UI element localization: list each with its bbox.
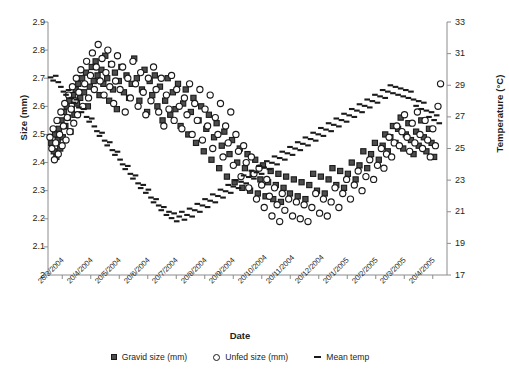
- legend-item[interactable]: Unfed size (mm): [213, 352, 288, 362]
- x-axis-tick-label: 20/8/2004: [179, 256, 209, 286]
- legend-item-label: Unfed size (mm): [225, 352, 288, 362]
- x-axis-tick-label: 20/11/2004: [264, 253, 296, 285]
- x-axis-tick-label: 20/12/2004: [293, 253, 326, 286]
- x-axis-tick-label: 20/3/2004: [36, 256, 66, 286]
- chart-legend: Gravid size (mm)Unfed size (mm)Mean temp: [0, 352, 480, 362]
- x-axis-tick-label: 20/6/2004: [122, 256, 152, 286]
- x-axis-tick-label: 20/2/2005: [350, 256, 380, 286]
- y-axis-left-title: Size (mm): [18, 73, 29, 163]
- legend-item[interactable]: Gravid size (mm): [111, 352, 187, 362]
- x-axis-tick-label: 20/9/2004: [207, 256, 237, 286]
- legend-item[interactable]: Mean temp: [314, 352, 369, 362]
- x-axis-tick-label: 20/10/2004: [236, 253, 269, 286]
- chart-figure: 2.92.82.72.62.52.42.32.22.12 33312927252…: [0, 0, 509, 382]
- x-axis-tick-label: 20/3/2005: [378, 256, 408, 286]
- x-axis-ticks: 20/3/200420/4/200420/5/200420/6/200420/7…: [0, 0, 509, 382]
- x-axis-tick-label: 20/4/2004: [65, 256, 95, 286]
- x-axis-tick-label: 20/5/2004: [93, 256, 123, 286]
- legend-item-label: Gravid size (mm): [122, 352, 187, 362]
- mean-temp-dash-icon: [314, 356, 321, 358]
- x-axis-tick-label: 20/7/2004: [150, 256, 180, 286]
- x-axis-tick-label: 20/4/2005: [407, 256, 437, 286]
- y-axis-right-title: Temperature (°C): [494, 64, 505, 164]
- x-axis-title: Date: [0, 330, 480, 341]
- unfed-circle-icon: [213, 354, 220, 361]
- gravid-square-icon: [111, 354, 117, 360]
- legend-item-label: Mean temp: [326, 352, 369, 362]
- x-axis-tick-label: 20/1/2005: [321, 256, 351, 286]
